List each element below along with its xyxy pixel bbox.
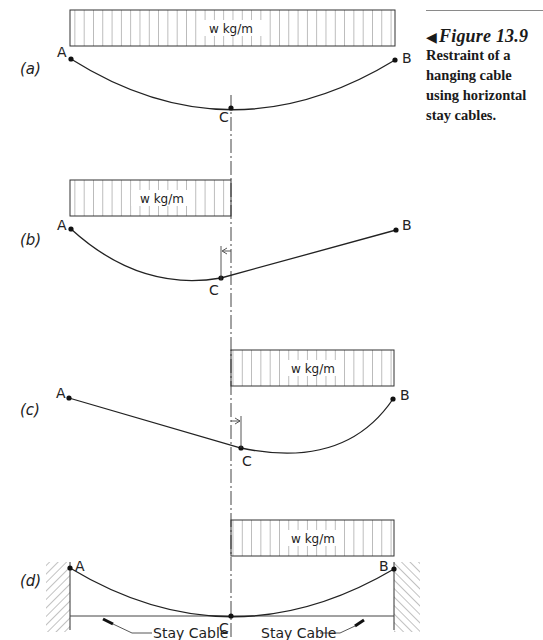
cable-d — [70, 568, 394, 617]
load-label-b: w kg/m — [140, 192, 184, 206]
point-c-b: C — [209, 282, 219, 298]
panel-label-c: (c) — [20, 401, 40, 419]
point-b-a: B — [402, 50, 412, 66]
cable-a — [71, 59, 395, 110]
point-b-b: B — [402, 217, 412, 233]
point-c-c: C — [242, 453, 252, 469]
panel-c: w kg/m A B C (c) — [20, 350, 410, 469]
load-label-d: w kg/m — [291, 532, 335, 546]
point-a-c: A — [56, 385, 66, 401]
load-label-c: w kg/m — [291, 362, 335, 376]
point-b-d: B — [379, 558, 389, 574]
right-wall — [394, 562, 420, 632]
caption-text: Restraint of a hanging cable using horiz… — [426, 45, 543, 125]
figure-title: ◀Figure 13.9 — [426, 26, 528, 47]
point-b-c: B — [400, 387, 410, 403]
left-wall — [46, 562, 70, 632]
figure-number: Figure 13.9 — [439, 26, 528, 46]
triangle-marker-icon: ◀ — [426, 30, 437, 45]
panel-label-b: (b) — [20, 231, 41, 249]
panel-b: w kg/m A B C (b) — [20, 180, 412, 298]
point-a-b: A — [57, 217, 67, 233]
point-a-a: A — [57, 44, 67, 60]
caption-rule — [426, 10, 543, 11]
point-a-d: A — [75, 558, 85, 574]
stay-cable-label-left: Stay Cable — [153, 625, 228, 640]
point-c-a: C — [219, 109, 229, 125]
panel-a: w kg/m A B C (a) — [20, 10, 412, 125]
load-label-a: w kg/m — [209, 22, 253, 36]
panel-label-d: (d) — [20, 572, 41, 590]
stay-cable-label-right: Stay Cable — [261, 625, 336, 640]
panel-label-a: (a) — [20, 60, 41, 78]
cable-b — [71, 229, 396, 281]
panel-d: w kg/m A B C Stay Cable Stay Cable (d) — [20, 520, 420, 640]
